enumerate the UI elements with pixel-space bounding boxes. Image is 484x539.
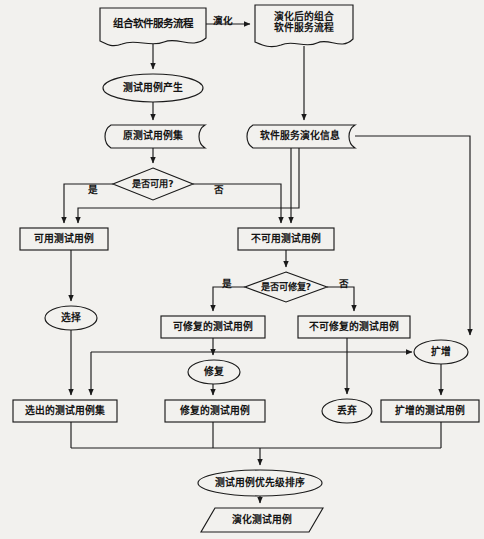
edge-label-available-no: 否 bbox=[214, 182, 224, 196]
edge-decision-repairable-no bbox=[327, 287, 354, 311]
edge-label-available-yes: 是 bbox=[88, 182, 98, 196]
edge-label-repairable-no: 否 bbox=[339, 276, 349, 290]
shape-service-evolution-info bbox=[247, 125, 355, 148]
shape-decision-repairable bbox=[245, 272, 327, 302]
shape-selected-testcase-set bbox=[13, 400, 117, 422]
edge-evolution-info-to-augment bbox=[355, 136, 470, 335]
edge-decision-available-no bbox=[193, 184, 281, 223]
shape-select-action bbox=[45, 306, 97, 330]
shape-unavailable-testcases bbox=[238, 228, 334, 250]
edge-label-repairable-yes: 是 bbox=[222, 276, 232, 290]
shape-decision-available bbox=[113, 168, 193, 200]
edge-decision-repairable-yes bbox=[213, 287, 245, 311]
shape-testcase-prioritization bbox=[198, 470, 322, 496]
shape-augmented-testcases bbox=[381, 400, 479, 422]
flowchart-vector-layer bbox=[0, 0, 484, 539]
shape-repairable-testcases bbox=[161, 316, 265, 338]
shape-original-testcase-set bbox=[105, 125, 205, 148]
shape-testcase-generation bbox=[103, 74, 203, 102]
shape-evolved-composite-service bbox=[255, 5, 353, 47]
shape-discard-action bbox=[322, 399, 372, 423]
shape-augment-action bbox=[414, 340, 468, 364]
shape-available-testcases bbox=[20, 228, 108, 250]
flowchart-canvas: 组合软件服务流程 演化后的组合 软件服务流程 测试用例产生 原测试用例集 软件服… bbox=[0, 0, 484, 539]
shape-repair-action bbox=[188, 360, 240, 384]
edge-label-evolution: 演化 bbox=[213, 13, 233, 27]
shape-evolved-testcases-output bbox=[201, 508, 323, 532]
shape-process-composite-service bbox=[100, 8, 206, 46]
shape-unrepairable-testcases bbox=[298, 316, 410, 338]
shape-repaired-testcases bbox=[165, 400, 265, 422]
